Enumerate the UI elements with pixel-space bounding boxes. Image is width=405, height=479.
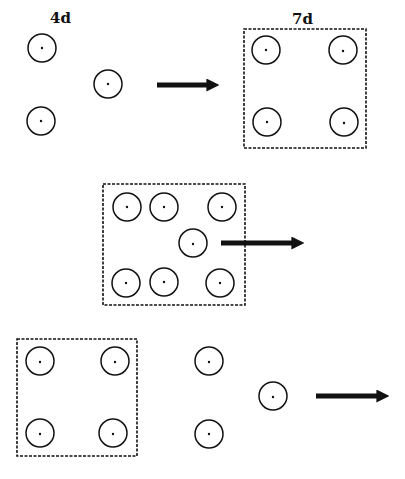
- cell: [101, 347, 129, 375]
- free-cells-group: [27, 34, 122, 135]
- cell: [206, 269, 234, 297]
- cell: [112, 269, 140, 297]
- cell: [195, 420, 223, 448]
- cell-nucleus-icon: [107, 83, 109, 85]
- cell-nucleus-icon: [112, 433, 114, 435]
- cell-nucleus-icon: [221, 206, 223, 208]
- cell-nucleus-icon: [272, 396, 274, 398]
- cell-nucleus-icon: [39, 361, 41, 363]
- cell: [94, 70, 122, 98]
- boxed-cells-group: [112, 193, 236, 297]
- diagram-canvas: 4d 7d: [0, 0, 405, 479]
- cell: [253, 108, 281, 136]
- cell-nucleus-icon: [163, 206, 165, 208]
- cell: [28, 34, 56, 62]
- cell: [150, 193, 178, 221]
- cell-nucleus-icon: [208, 361, 210, 363]
- boxed-cells-group: [252, 36, 358, 136]
- cell-nucleus-icon: [126, 206, 128, 208]
- free-cells-group: [195, 347, 287, 448]
- panel-2: [103, 184, 294, 305]
- cell: [208, 193, 236, 221]
- cell: [26, 347, 54, 375]
- cell-nucleus-icon: [41, 47, 43, 49]
- cell-nucleus-icon: [163, 281, 165, 283]
- cell-nucleus-icon: [265, 49, 267, 51]
- cell: [329, 36, 357, 64]
- cell-nucleus-icon: [266, 121, 268, 123]
- label-4d: 4d: [50, 9, 71, 27]
- dashed-box: [244, 29, 366, 148]
- cell: [150, 268, 178, 296]
- label-7d: 7d: [292, 10, 313, 28]
- cell-nucleus-icon: [114, 361, 116, 363]
- cell-nucleus-icon: [125, 282, 127, 284]
- panel-1: 4d 7d: [27, 9, 366, 148]
- cell-nucleus-icon: [219, 282, 221, 284]
- cell: [330, 108, 358, 136]
- cell-nucleus-icon: [192, 243, 194, 245]
- cell-nucleus-icon: [208, 433, 210, 435]
- cell: [113, 193, 141, 221]
- cell-nucleus-icon: [342, 50, 344, 52]
- cell: [27, 107, 55, 135]
- cell: [195, 347, 223, 375]
- dashed-box: [17, 339, 137, 456]
- cell: [252, 36, 280, 64]
- cell-nucleus-icon: [343, 122, 345, 124]
- cell: [99, 419, 127, 447]
- panel-3: [17, 339, 379, 456]
- cell-nucleus-icon: [40, 120, 42, 122]
- cell-nucleus-icon: [39, 433, 41, 435]
- cell: [26, 419, 54, 447]
- boxed-cells-group: [26, 347, 129, 447]
- cell: [259, 382, 287, 410]
- cell: [179, 229, 207, 257]
